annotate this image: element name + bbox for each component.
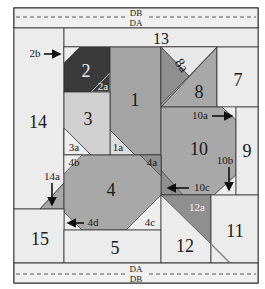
- label-4c: 4c: [145, 216, 156, 228]
- label-1a: 1a: [113, 141, 124, 153]
- label-12a: 12a: [189, 201, 205, 213]
- label-top-db: DB: [130, 8, 143, 18]
- label-4d: 4d: [88, 216, 100, 228]
- label-10: 10: [190, 139, 208, 159]
- label-3: 3: [84, 109, 93, 129]
- label-3a: 3a: [69, 141, 80, 153]
- label-12: 12: [176, 236, 194, 256]
- label-9: 9: [243, 141, 252, 161]
- label-2a: 2a: [98, 80, 109, 92]
- label-15: 15: [31, 229, 49, 249]
- bottom-band: DA DB: [14, 263, 258, 284]
- label-8: 8: [195, 82, 204, 102]
- label-bottom-da: DA: [130, 264, 143, 274]
- label-top-da: DA: [130, 18, 143, 28]
- label-14: 14: [29, 112, 47, 132]
- label-bottom-db: DB: [130, 274, 143, 284]
- label-10c: 10c: [194, 181, 210, 193]
- label-11: 11: [226, 221, 243, 241]
- label-14a: 14a: [44, 170, 60, 182]
- label-4a: 4a: [147, 156, 158, 168]
- top-band: DB DA: [14, 8, 258, 28]
- label-5: 5: [111, 238, 120, 258]
- quilt-block-diagram: DB DA DA DB: [0, 0, 265, 289]
- label-1: 1: [131, 90, 140, 110]
- label-13: 13: [153, 30, 169, 47]
- label-10a: 10a: [192, 109, 208, 121]
- label-4b: 4b: [69, 156, 81, 168]
- label-2: 2: [82, 61, 91, 81]
- label-7: 7: [234, 70, 243, 90]
- label-4: 4: [107, 180, 116, 200]
- label-2b: 2b: [30, 47, 42, 59]
- label-10b: 10b: [217, 154, 234, 166]
